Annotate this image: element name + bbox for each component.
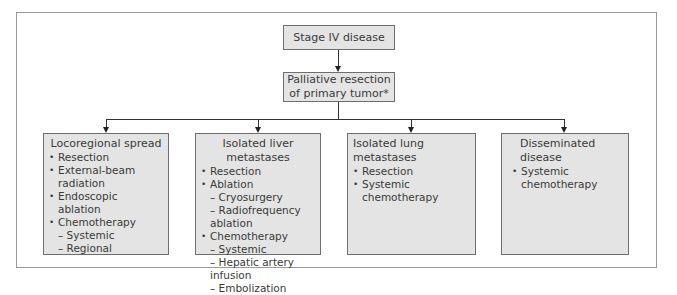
connector-step-bus <box>338 102 339 119</box>
list-item: Chemotherapy <box>201 230 315 243</box>
treatment-list: Resection Ablation – Cryosurgery – Radio… <box>201 165 315 295</box>
list-item: Resection <box>201 165 315 178</box>
treatment-list: Systemic chemotherapy <box>512 165 623 191</box>
step-line-1: Palliative resection <box>287 73 391 87</box>
branch-disseminated-disease: Disseminated disease Systemic chemothera… <box>501 133 629 255</box>
list-item: Ablation <box>201 178 315 191</box>
branch-isolated-lung-metastases: Isolated lung metastases Resection Syste… <box>347 133 476 255</box>
sub-list-item: – Systemic <box>201 243 315 256</box>
list-item: Systemic chemotherapy <box>353 178 470 204</box>
branch-title: Locoregional spread <box>49 137 163 151</box>
list-item: Resection <box>353 165 470 178</box>
sub-list-item: – Regional <box>49 242 163 255</box>
root-label: Stage IV disease <box>293 31 384 45</box>
list-item: Resection <box>49 151 163 164</box>
sub-list-item: – Systemic <box>49 229 163 242</box>
list-item: External-beam radiation <box>49 164 163 190</box>
treatment-list: Resection Systemic chemotherapy <box>353 165 470 204</box>
branch-title: Disseminated disease <box>512 137 623 165</box>
root-node: Stage IV disease <box>283 25 395 50</box>
connector-root-step <box>338 50 339 67</box>
palliative-resection-node: Palliative resection of primary tumor* <box>283 72 395 102</box>
branch-locoregional-spread: Locoregional spread Resection External-b… <box>43 133 169 255</box>
treatment-list: Resection External-beam radiation Endosc… <box>49 151 163 255</box>
branch-title: Isolated liver metastases <box>201 137 315 165</box>
sub-list-item: – Radiofrequency ablation <box>201 204 315 230</box>
list-item: Systemic chemotherapy <box>512 165 623 191</box>
branch-title: Isolated lung metastases <box>353 137 470 165</box>
sub-list-item: – Hepatic artery infusion <box>201 256 315 282</box>
list-item: Chemotherapy <box>49 216 163 229</box>
sub-list-item: – Embolization <box>201 282 315 295</box>
step-line-2: of primary tumor* <box>289 87 388 101</box>
branch-isolated-liver-metastases: Isolated liver metastases Resection Abla… <box>195 133 321 255</box>
connector-bus <box>106 119 565 120</box>
list-item: Endoscopic ablation <box>49 190 163 216</box>
sub-list-item: – Cryosurgery <box>201 191 315 204</box>
